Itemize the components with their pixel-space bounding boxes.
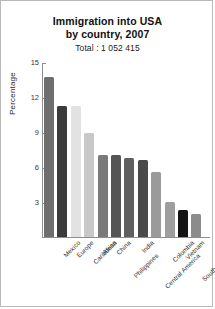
y-axis-tick-label: 9 <box>35 128 39 137</box>
bar-series <box>44 63 210 237</box>
chart-subtitle: Total : 1 052 415 <box>1 43 214 53</box>
y-axis-tick: 15 <box>20 63 46 64</box>
bar <box>178 210 188 237</box>
page-title: Immigration into USA by country, 2007 <box>1 15 214 40</box>
bar-fill <box>178 210 188 237</box>
x-axis-line <box>42 237 210 238</box>
bar-fill <box>124 158 134 237</box>
x-axis-category-label: Philippines <box>132 252 159 279</box>
bar <box>71 106 81 237</box>
bar-fill <box>151 172 161 237</box>
y-axis-tick-label: 12 <box>31 93 39 102</box>
y-axis-tick: 12 <box>20 98 46 99</box>
bar <box>44 77 54 237</box>
title-block: Immigration into USA by country, 2007 To… <box>1 15 214 53</box>
bar-fill <box>44 77 54 237</box>
y-axis-tick-label: 15 <box>31 58 39 67</box>
bar-fill <box>98 155 108 237</box>
chart-title-line-2: by country, 2007 <box>1 28 214 41</box>
bar-fill <box>191 214 201 237</box>
y-axis-title: Percentage <box>8 72 17 115</box>
bar <box>111 155 121 237</box>
bar <box>98 155 108 237</box>
bar <box>191 214 201 237</box>
plot-area: Percentage 1512963 <box>42 63 210 238</box>
bar <box>165 202 175 237</box>
bar-fill <box>111 155 121 237</box>
bar <box>151 172 161 237</box>
bar-fill <box>165 202 175 237</box>
bar-fill <box>84 133 94 237</box>
bar-fill <box>71 106 81 237</box>
x-axis-category-label: Africa <box>101 239 118 256</box>
y-axis-tick: 9 <box>20 133 46 134</box>
bar-fill <box>57 106 67 237</box>
chart-figure: Immigration into USA by country, 2007 To… <box>0 0 213 307</box>
x-axis-category-label: China <box>115 239 132 256</box>
chart-title-line-1: Immigration into USA <box>53 15 162 27</box>
bar-fill <box>138 160 148 237</box>
bar <box>138 160 148 237</box>
x-axis-category-labels: MexicoEuropeCaribbeanAfricaChinaPhilippi… <box>42 239 214 309</box>
y-axis-tick: 3 <box>20 203 46 204</box>
x-axis-category-label: South Korea <box>201 252 215 282</box>
bar <box>124 158 134 237</box>
bar <box>84 133 94 237</box>
y-axis-tick-label: 6 <box>35 163 39 172</box>
y-axis-tick-label: 3 <box>35 198 39 207</box>
x-axis-category-label: Central America <box>163 252 201 290</box>
y-axis-line <box>42 63 43 238</box>
bar <box>57 106 67 237</box>
y-axis-tick: 6 <box>20 168 46 169</box>
